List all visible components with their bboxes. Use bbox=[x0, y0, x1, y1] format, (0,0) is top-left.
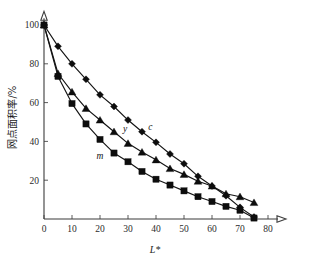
data-point-square bbox=[237, 207, 243, 213]
y-tick-label: 100 bbox=[25, 20, 40, 30]
data-point-square bbox=[251, 215, 257, 221]
chart-container: 20406080100 01020304050607080 cym L* 网点面… bbox=[0, 0, 333, 272]
y-tick-label: 60 bbox=[30, 98, 40, 108]
series-label-c: c bbox=[148, 122, 153, 132]
data-point-square bbox=[97, 136, 103, 142]
data-point-square bbox=[209, 198, 215, 204]
x-tick-label: 70 bbox=[235, 224, 245, 234]
data-point-square bbox=[55, 73, 61, 79]
data-point-square bbox=[83, 121, 89, 127]
series-label-y: y bbox=[122, 124, 128, 134]
data-point-square bbox=[111, 150, 117, 156]
x-tick-label: 20 bbox=[95, 224, 105, 234]
y-tick-label: 40 bbox=[30, 137, 40, 147]
x-tick-label: 80 bbox=[263, 224, 273, 234]
data-point-square bbox=[181, 188, 187, 194]
plot-area: 20406080100 01020304050607080 cym bbox=[25, 11, 286, 234]
data-point-triangle bbox=[250, 199, 258, 206]
data-point-square bbox=[41, 22, 47, 28]
x-axis-arrowhead bbox=[277, 216, 286, 222]
dot-area-vs-lightness-chart: 20406080100 01020304050607080 cym L* 网点面… bbox=[0, 0, 333, 272]
x-tick-label: 40 bbox=[151, 224, 161, 234]
y-axis-title: 网点面积率/% bbox=[6, 86, 18, 149]
x-axis-ticks: 01020304050607080 bbox=[42, 215, 273, 234]
data-point-triangle bbox=[180, 171, 188, 178]
data-point-triangle bbox=[152, 156, 160, 163]
x-axis-title: L* bbox=[149, 244, 161, 255]
x-tick-label: 0 bbox=[42, 224, 47, 234]
data-point-square bbox=[125, 159, 131, 165]
data-point-square bbox=[195, 194, 201, 200]
x-tick-label: 10 bbox=[67, 224, 77, 234]
data-point-square bbox=[139, 168, 145, 174]
data-point-triangle bbox=[68, 88, 76, 95]
x-tick-label: 50 bbox=[179, 224, 189, 234]
x-tick-label: 60 bbox=[207, 224, 217, 234]
series-label-m: m bbox=[97, 151, 104, 161]
series-y bbox=[40, 21, 258, 205]
data-point-square bbox=[223, 203, 229, 209]
data-point-square bbox=[167, 182, 173, 188]
y-tick-label: 20 bbox=[30, 176, 40, 186]
data-point-triangle bbox=[138, 148, 146, 155]
data-point-square bbox=[69, 100, 75, 106]
data-point-square bbox=[153, 176, 159, 182]
x-tick-label: 30 bbox=[123, 224, 133, 234]
y-tick-label: 80 bbox=[30, 59, 40, 69]
data-point-triangle bbox=[166, 165, 174, 172]
